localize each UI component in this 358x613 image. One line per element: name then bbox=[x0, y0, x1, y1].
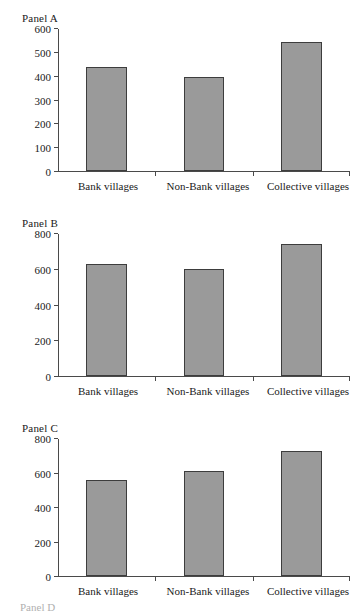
y-tick-label: 200 bbox=[35, 119, 52, 130]
y-tick-label: 400 bbox=[35, 71, 52, 82]
x-tick-mark-end bbox=[349, 577, 350, 581]
y-tick-label: 100 bbox=[35, 143, 52, 154]
y-tick-label: 800 bbox=[35, 229, 52, 240]
x-category-label: Non-Bank villages bbox=[167, 586, 250, 597]
x-tick-mark bbox=[253, 377, 254, 381]
bar bbox=[184, 269, 225, 377]
x-tick-mark bbox=[253, 172, 254, 176]
x-category-label: Collective villages bbox=[267, 386, 349, 397]
bar bbox=[86, 67, 127, 171]
y-tick-label: 600 bbox=[35, 264, 52, 275]
x-category-label: Collective villages bbox=[267, 181, 349, 192]
x-category-label: Non-Bank villages bbox=[167, 181, 250, 192]
panel-c-bars bbox=[58, 439, 350, 577]
bar bbox=[281, 451, 322, 576]
y-tick-label: 200 bbox=[35, 537, 52, 548]
panel-c-category-labels: Bank villagesNon-Bank villagesCollective… bbox=[58, 586, 358, 600]
y-tick-label: 400 bbox=[35, 300, 52, 311]
panel-b-bars bbox=[58, 234, 350, 377]
bar bbox=[281, 244, 322, 376]
y-tick-label: 400 bbox=[35, 503, 52, 514]
clipped-next-panel-label: Panel D bbox=[20, 601, 55, 613]
x-tick-mark-end bbox=[349, 377, 350, 381]
x-category-label: Bank villages bbox=[78, 586, 138, 597]
x-tick-mark bbox=[253, 577, 254, 581]
y-tick-label: 0 bbox=[46, 572, 52, 583]
bar bbox=[86, 480, 127, 576]
y-tick-label: 0 bbox=[46, 167, 52, 178]
y-tick-label: 300 bbox=[35, 95, 52, 106]
panel-a-plot-area: 0100200300400500600 bbox=[58, 29, 350, 172]
y-tick-label: 600 bbox=[35, 468, 52, 479]
y-tick-label: 0 bbox=[46, 372, 52, 383]
x-category-label: Bank villages bbox=[78, 181, 138, 192]
x-tick-mark bbox=[155, 377, 156, 381]
x-tick-mark bbox=[155, 577, 156, 581]
x-tick-mark-end bbox=[349, 172, 350, 176]
panel-c-plot-area: 0200400600800 bbox=[58, 439, 350, 577]
panel-a: Panel A 0100200300400500600 Bank village… bbox=[0, 0, 358, 205]
x-category-label: Bank villages bbox=[78, 386, 138, 397]
panel-b-category-labels: Bank villagesNon-Bank villagesCollective… bbox=[58, 386, 358, 400]
y-tick-label: 500 bbox=[35, 47, 52, 58]
panel-b-plot-area: 0200400600800 bbox=[58, 234, 350, 377]
panel-c: Panel C 0200400600800 Bank villagesNon-B… bbox=[0, 410, 358, 610]
x-category-label: Collective villages bbox=[267, 586, 349, 597]
y-tick-label: 200 bbox=[35, 336, 52, 347]
bar bbox=[86, 264, 127, 376]
bar bbox=[184, 471, 225, 576]
panel-a-category-labels: Bank villagesNon-Bank villagesCollective… bbox=[58, 181, 358, 195]
panel-b: Panel B 0200400600800 Bank villagesNon-B… bbox=[0, 205, 358, 410]
x-category-label: Non-Bank villages bbox=[167, 386, 250, 397]
bar bbox=[184, 77, 225, 171]
y-tick-label: 800 bbox=[35, 434, 52, 445]
bar bbox=[281, 42, 322, 171]
panel-a-bars bbox=[58, 29, 350, 172]
y-tick-label: 600 bbox=[35, 24, 52, 35]
x-tick-mark bbox=[155, 172, 156, 176]
